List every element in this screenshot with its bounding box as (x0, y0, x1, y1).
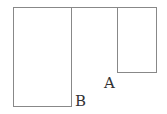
rectangle-a (118, 8, 157, 73)
rectangle-b (14, 8, 72, 107)
label-b: B (75, 94, 86, 109)
label-a: A (104, 76, 115, 91)
